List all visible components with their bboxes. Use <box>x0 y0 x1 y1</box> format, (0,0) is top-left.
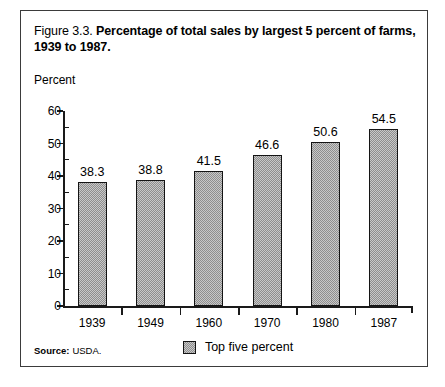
source-label: Source: <box>34 345 69 356</box>
bar-1949 <box>136 180 165 306</box>
x-axis-tick-label: 1939 <box>62 317 122 330</box>
x-axis-tick-label: 1970 <box>237 317 297 330</box>
x-axis-tick-label: 1960 <box>179 317 239 330</box>
x-axis-tick <box>180 308 182 315</box>
y-axis-minor-tick <box>65 127 69 128</box>
x-axis-tick <box>238 308 240 315</box>
bar-value-label: 38.8 <box>121 164 181 177</box>
x-axis-tick-label: 1980 <box>296 317 356 330</box>
bar-value-label: 54.5 <box>354 113 414 126</box>
y-axis-tick-label: 20 <box>21 235 61 247</box>
x-axis-tick <box>355 308 357 315</box>
bar-value-label: 46.6 <box>237 139 297 152</box>
y-axis-minor-tick <box>65 289 69 290</box>
x-axis-tick-label: 1949 <box>121 317 181 330</box>
bar-1980 <box>311 142 340 306</box>
x-axis-end-tick <box>411 306 413 313</box>
x-axis-tick-label: 1987 <box>354 317 414 330</box>
y-axis-line <box>63 111 65 306</box>
plot-area: 0102030405060 193919491960197019801987 3… <box>63 101 413 306</box>
source-value: USDA. <box>72 345 101 356</box>
figure-frame: Figure 3.3. Percentage of total sales by… <box>20 10 428 367</box>
legend-swatch-top-five-percent <box>183 341 196 354</box>
y-axis-tick-label: 10 <box>21 268 61 280</box>
bar-1960 <box>194 171 223 306</box>
figure-title: Figure 3.3. Percentage of total sales by… <box>34 23 416 55</box>
legend-label-top-five-percent: Top five percent <box>205 341 293 354</box>
y-axis-tick-label: 30 <box>21 203 61 215</box>
bar-1987 <box>369 129 398 306</box>
x-axis-tick <box>296 308 298 315</box>
y-axis-tick-label: 60 <box>21 105 61 117</box>
x-axis-tick <box>121 308 123 315</box>
bar-1970 <box>253 155 282 306</box>
source-note: Source:USDA. <box>34 345 101 356</box>
bar-1939 <box>78 182 107 306</box>
figure-number: Figure 3.3. <box>34 24 93 38</box>
y-axis-tick-label: 40 <box>21 170 61 182</box>
y-axis-minor-tick <box>65 192 69 193</box>
bar-value-label: 38.3 <box>62 166 122 179</box>
y-axis-title: Percent <box>34 73 75 87</box>
chart-legend: Top five percent <box>63 341 413 354</box>
y-axis-tick-label: 50 <box>21 138 61 150</box>
bar-value-label: 50.6 <box>296 126 356 139</box>
bar-value-label: 41.5 <box>179 155 239 168</box>
y-axis-minor-tick <box>65 257 69 258</box>
y-axis-minor-tick <box>65 159 69 160</box>
y-axis-tick-label: 0 <box>21 300 61 312</box>
y-axis-minor-tick <box>65 224 69 225</box>
